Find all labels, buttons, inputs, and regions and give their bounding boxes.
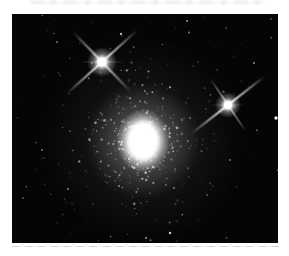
field-star-dot [60, 75, 61, 76]
bottom-crop-line-artifact [12, 246, 279, 247]
field-star-dot [22, 197, 24, 199]
field-star-dot [25, 186, 27, 188]
cluster-star-dot [183, 117, 185, 119]
cluster-star-dot [183, 182, 185, 184]
cluster-star-dot [164, 166, 166, 168]
field-star-dot [44, 184, 46, 186]
cluster-star-dot [129, 97, 130, 98]
field-star-dot [42, 15, 43, 16]
notable-star-dot [229, 159, 231, 161]
cluster-star-dot [150, 58, 152, 60]
cluster-star-dot [191, 172, 192, 173]
field-star-dot [129, 51, 131, 53]
cluster-star-dot [181, 185, 183, 187]
field-star-dot [58, 72, 60, 74]
cluster-star-dot [174, 168, 176, 170]
field-star-dot [256, 129, 258, 131]
field-star-dot [213, 122, 214, 123]
cluster-star-dot [62, 214, 64, 216]
cluster-star-dot [224, 185, 225, 186]
cluster-star-dot [196, 144, 197, 145]
cluster-star-dot [65, 201, 68, 204]
cluster-star-dot [120, 96, 121, 97]
cluster-star-dot [216, 69, 218, 71]
cluster-star-dot [100, 119, 102, 121]
cluster-star-dot [115, 93, 116, 94]
field-star-dot [43, 157, 44, 158]
cluster-star-dot [156, 63, 157, 64]
cluster-star-dot [162, 164, 164, 166]
field-star-dot [270, 18, 272, 20]
cluster-star-dot [85, 170, 86, 171]
cluster-star-dot [147, 76, 149, 78]
field-star-dot [98, 240, 99, 241]
cluster-star-dot [172, 125, 174, 127]
cluster-star-dot [202, 138, 204, 140]
cluster-star-dot [79, 202, 80, 203]
field-star-dot [110, 236, 112, 238]
cluster-star-dot [116, 128, 118, 130]
cluster-star-dot [126, 205, 127, 206]
field-star-dot [71, 203, 73, 205]
cluster-star-dot [173, 151, 175, 153]
field-star-dot [226, 237, 228, 239]
cluster-star-dot [100, 138, 102, 140]
cluster-star-dot [167, 109, 168, 110]
cluster-star-dot [126, 96, 128, 98]
cluster-star-dot [102, 127, 103, 128]
field-star-dot [215, 47, 216, 48]
field-star-dot [162, 97, 164, 99]
cluster-star-dot [93, 146, 94, 147]
field-star-dot [62, 104, 64, 106]
cluster-star-dot [81, 155, 82, 156]
cluster-star-dot [113, 212, 114, 213]
field-star-dot [50, 193, 52, 195]
cluster-star-dot [177, 150, 179, 152]
cluster-star-dot [110, 119, 113, 122]
cluster-star-dot [82, 213, 84, 215]
cluster-star-dot [149, 193, 150, 194]
cluster-star-dot [105, 181, 106, 182]
cluster-star-dot [94, 122, 97, 125]
screenshot-root [0, 0, 289, 256]
cluster-star-dot [177, 199, 179, 201]
cluster-star-dot [117, 95, 119, 97]
cluster-star-dot [73, 209, 75, 211]
cluster-star-dot [224, 163, 225, 164]
field-star-dot [36, 169, 37, 170]
cluster-star-dot [100, 117, 101, 118]
notable-star-dot [274, 116, 277, 119]
cluster-star-dot [172, 122, 174, 124]
cluster-star-dot [176, 127, 179, 130]
cluster-star-dot [176, 140, 178, 142]
cluster-star-dot [137, 190, 138, 191]
cluster-star-dot [197, 219, 199, 221]
field-star-dot [57, 222, 58, 223]
cluster-star-dot [113, 126, 114, 127]
cluster-star-dot [147, 196, 148, 197]
cluster-core [116, 109, 170, 173]
cluster-star-dot [104, 174, 105, 175]
field-star-dot [54, 19, 55, 20]
cluster-star-dot [118, 174, 120, 176]
cluster-star-dot [62, 127, 63, 128]
cluster-star-dot [149, 65, 150, 66]
cluster-star-dot [77, 226, 78, 227]
cluster-star-dot [175, 155, 176, 156]
cluster-star-dot [168, 127, 170, 129]
cluster-star-dot [251, 156, 252, 157]
cluster-star-dot [170, 117, 172, 119]
field-star-dot [206, 194, 208, 196]
cluster-star-dot [134, 105, 136, 107]
cluster-star-dot [233, 55, 236, 58]
cluster-star-dot [106, 182, 108, 184]
cluster-star-dot [144, 90, 146, 92]
cluster-star-dot [187, 140, 189, 142]
cluster-star-dot [165, 228, 166, 229]
cluster-star-dot [101, 113, 103, 115]
cluster-star-dot [187, 167, 189, 169]
cluster-star-dot [165, 184, 167, 186]
cluster-star-dot [114, 148, 116, 150]
cluster-star-dot [174, 170, 176, 172]
field-star-dot [150, 239, 152, 241]
